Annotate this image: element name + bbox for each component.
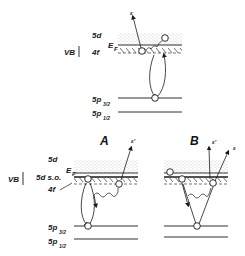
electron-label-b2: ε [233,145,236,151]
bottom-labels: 5d 5d s.o. 4f VB E F 5p 3/2 5p 1/2 [8,155,76,249]
transition-down-arrow-a [89,183,94,225]
hole-4f [139,48,146,55]
hole-b-1 [167,169,174,176]
label-5d-so: 5d s.o. [36,173,61,182]
electron-label-b1: ε' [212,139,217,145]
4f-band-hatch-a [74,178,138,184]
5d-band-stipple-a [74,160,138,173]
panel-b: B ε' ε [164,134,236,237]
5d-band-stipple [118,33,182,45]
hole-a-left [85,176,92,183]
panel-b-title: B [190,134,199,148]
electron-label: ε [130,10,133,16]
electron-5d [162,35,169,42]
wavy-interaction-b [188,188,211,198]
label-4f: 4f [91,48,100,57]
transition-down-arrow [150,55,155,97]
label-5p12-sub-bottom: 1/2 [59,243,66,249]
4f-band-hatch [118,46,182,53]
electron-label-a: ε' [131,138,136,144]
energy-level-diagram: ε 5d 4f VB E F 5p 3/2 5p 1/2 5d 5d s.o. … [0,0,245,256]
transition-up-arrow [157,55,166,97]
label-4f-bottom: 4f [47,185,56,194]
hole-a-right [116,181,123,188]
panel-a-title: A [99,134,109,148]
label-5p32-sub-bottom: 3/2 [59,229,66,235]
label-vb-bottom: VB [8,175,19,184]
4f-pointer-line [60,183,72,190]
label-5d-bottom: 5d [48,155,58,164]
label-ef-sub: F [114,46,118,52]
core-hole-5p32 [152,95,159,102]
core-hole-b [194,223,201,230]
label-5d: 5d [92,31,102,40]
label-5p32-sub: 3/2 [103,101,110,107]
transition-line-b-left [183,184,196,224]
label-5p12: 5p [92,109,101,118]
transition-up-arrow-a [81,183,87,225]
label-5p32: 5p [92,95,101,104]
label-5p12-sub: 1/2 [103,115,110,121]
transition-line-b-right [199,187,213,224]
hole-b-2 [179,176,186,183]
wavy-down-arrow-b [182,183,188,205]
panel-a: A ε' [74,134,138,239]
label-5p32-bottom: 5p [48,223,57,232]
top-panel: ε 5d 4f VB E F 5p 3/2 5p 1/2 [64,10,182,121]
4f-band-hatch-b [164,178,228,184]
wavy-interaction-a [94,188,118,197]
label-vb: VB [64,48,75,57]
label-5p12-bottom: 5p [48,237,57,246]
core-hole-a [85,223,92,230]
emitted-electron-arrow-b1 [209,148,210,179]
